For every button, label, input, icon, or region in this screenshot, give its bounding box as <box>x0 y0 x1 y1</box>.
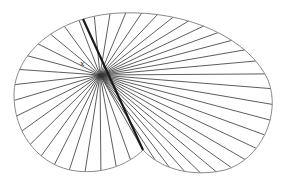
center-label: x <box>80 59 85 68</box>
radial-line <box>100 74 265 75</box>
radial-line <box>100 61 256 75</box>
radial-line <box>100 75 265 135</box>
radial-line <box>100 26 204 75</box>
diagram: x <box>0 0 282 192</box>
radial-line <box>69 75 100 170</box>
radial-line <box>100 75 169 167</box>
radial-line <box>100 75 101 171</box>
radial-line <box>38 44 100 75</box>
radial-line <box>28 56 100 75</box>
thick-line <box>83 19 143 150</box>
radial-line <box>100 75 232 168</box>
radial-line <box>100 75 185 171</box>
radial-line <box>17 75 100 116</box>
radial-line <box>15 75 100 85</box>
radial-line <box>22 75 100 131</box>
radial-line <box>100 17 173 75</box>
radial-line <box>20 70 100 76</box>
radial-line <box>100 50 245 75</box>
radial-line <box>41 75 100 156</box>
